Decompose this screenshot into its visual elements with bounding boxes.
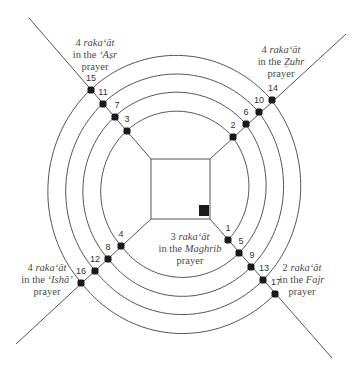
- rakah-dot: [124, 128, 131, 135]
- rakah-number: 5: [238, 236, 243, 246]
- prayer-spiral-diagram: 1234567891011121314151617: [0, 0, 359, 378]
- rakah-number: 2: [230, 120, 235, 130]
- rakah-dot: [269, 97, 276, 104]
- label-prefix: in the: [73, 49, 97, 60]
- prayer-name: ‘Aṣr: [99, 49, 117, 60]
- rakah-count: 4: [76, 37, 81, 48]
- rakah-number: 15: [86, 73, 96, 83]
- rakah-dot: [118, 243, 125, 250]
- rakah-dot: [100, 101, 107, 108]
- label-suffix: prayer: [73, 61, 117, 73]
- rakah-number: 10: [254, 95, 264, 105]
- rakah-dot: [243, 121, 250, 128]
- rakah-dot: [230, 134, 237, 141]
- rakah-dot: [112, 114, 119, 121]
- rakah-unit: raka‘āt: [178, 231, 209, 242]
- rakah-number: 1: [225, 223, 230, 233]
- label-zuhr: 4 raka‘āt in the Ẓuhr prayer: [258, 44, 305, 80]
- rakah-number: 12: [90, 254, 100, 264]
- label-prefix: in the: [280, 274, 304, 285]
- rakah-dot: [105, 256, 112, 263]
- rakah-dot: [256, 109, 263, 116]
- label-suffix: prayer: [280, 286, 325, 298]
- rakah-number: 14: [268, 83, 278, 93]
- label-prefix: in the: [21, 274, 45, 285]
- rakah-unit: raka‘āt: [290, 262, 321, 273]
- rakah-unit: raka‘āt: [35, 262, 66, 273]
- label-suffix: prayer: [258, 68, 305, 80]
- label-asr: 4 raka‘āt in the ‘Aṣr prayer: [73, 37, 117, 73]
- rakah-dot: [260, 277, 267, 284]
- rakah-dot: [248, 264, 255, 271]
- rakah-unit: raka‘āt: [269, 44, 300, 55]
- label-fajr: 2 raka‘āt in the Fajr prayer: [280, 262, 325, 298]
- rakah-number: 16: [76, 266, 86, 276]
- rakah-count: 3: [171, 231, 176, 242]
- label-prefix: in the: [159, 243, 183, 254]
- prayer-name: ‘Ishā’: [48, 274, 73, 285]
- rakah-number: 11: [98, 87, 107, 97]
- rakah-dot: [236, 250, 243, 257]
- rakah-number: 7: [114, 100, 119, 110]
- rakah-dot: [78, 280, 85, 287]
- rakah-number: 4: [118, 229, 123, 239]
- kaaba-corner-marker: [199, 205, 209, 216]
- rakah-number: 6: [243, 107, 248, 117]
- rakah-dot: [92, 268, 99, 275]
- rakah-dot: [272, 291, 279, 298]
- prayer-name: Maghrib: [185, 243, 222, 254]
- rakah-dot: [88, 87, 95, 94]
- label-isha: 4 raka‘āt in the ‘Ishā’ prayer: [21, 262, 72, 298]
- rakah-count: 4: [28, 262, 33, 273]
- rakah-count: 4: [262, 44, 267, 55]
- rakah-number: 3: [124, 114, 129, 124]
- prayer-name: Ẓuhr: [284, 56, 304, 67]
- rakah-number: 8: [105, 242, 110, 252]
- label-suffix: prayer: [159, 255, 222, 267]
- rakah-unit: raka‘āt: [83, 37, 114, 48]
- rakah-number: 13: [259, 263, 269, 273]
- rakah-number: 9: [249, 250, 254, 260]
- label-prefix: in the: [258, 56, 282, 67]
- label-suffix: prayer: [21, 286, 72, 298]
- label-maghrib: 3 raka‘āt in the Maghrib prayer: [159, 231, 222, 267]
- rakah-count: 2: [283, 262, 288, 273]
- rakah-dot: [225, 237, 232, 244]
- prayer-name: Fajr: [306, 274, 325, 285]
